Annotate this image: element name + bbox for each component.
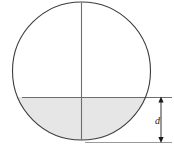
shaded-segment	[0, 97, 174, 148]
circle-segment-diagram: d	[0, 0, 174, 148]
depth-label: d	[155, 116, 160, 126]
diagram-canvas	[0, 0, 174, 148]
